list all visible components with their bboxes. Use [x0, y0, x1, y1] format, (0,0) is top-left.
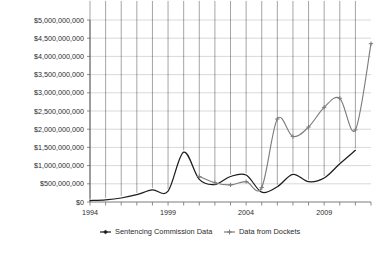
y-tick-label: $2,500,000,000	[34, 107, 84, 116]
legend-label: Data from Dockets	[239, 227, 301, 236]
y-tick-label: $1,500,000,000	[34, 143, 84, 152]
line-chart: $5,000,000,000$4,500,000,000$4,000,000,0…	[0, 0, 387, 253]
x-tick-label: 2004	[238, 208, 254, 217]
chart-legend: Sentencing Commission DataData from Dock…	[100, 227, 301, 236]
legend-item-1[interactable]: Sentencing Commission Data	[100, 227, 213, 236]
y-tick-label: $1,000,000,000	[34, 161, 84, 170]
y-tick-label: $4,500,000,000	[34, 34, 84, 43]
x-tick-label: 2009	[316, 208, 332, 217]
chart-container: $5,000,000,000$4,500,000,000$4,000,000,0…	[0, 0, 387, 253]
y-tick-label: $3,500,000,000	[34, 70, 84, 79]
y-tick-label: $2,000,000,000	[34, 125, 84, 134]
y-tick-label: $0	[76, 198, 84, 207]
x-tick-label: 1994	[82, 208, 98, 217]
legend-label: Sentencing Commission Data	[115, 227, 213, 236]
y-tick-label: $3,000,000,000	[34, 88, 84, 97]
y-tick-label: $5,000,000,000	[34, 16, 84, 25]
y-tick-label: $4,000,000,000	[34, 52, 84, 61]
y-tick-label: $500,000,000	[40, 179, 84, 188]
x-tick-label: 1999	[160, 208, 176, 217]
